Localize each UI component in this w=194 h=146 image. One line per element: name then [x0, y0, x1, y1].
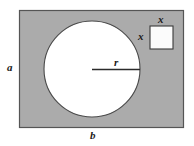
- label-square-side-left-x: x: [138, 31, 144, 42]
- geometry-figure: a b r x x: [0, 0, 194, 146]
- label-height-a: a: [7, 62, 13, 73]
- label-width-b: b: [90, 130, 96, 141]
- square-cutout: [150, 26, 173, 49]
- label-square-side-top-x: x: [158, 14, 164, 25]
- figure-canvas: [0, 0, 194, 146]
- label-radius-r: r: [114, 57, 118, 68]
